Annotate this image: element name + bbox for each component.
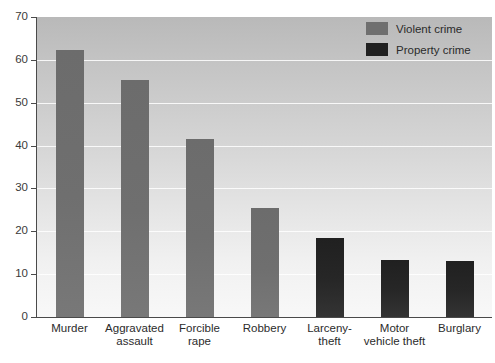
y-axis-tick-mark [31,188,36,189]
x-axis-category-label: Murder [37,322,102,335]
x-axis-line [36,317,492,318]
bar [446,261,474,317]
y-axis-tick-mark [31,231,36,232]
y-axis-line [36,17,37,318]
x-axis-category-label: Forcible rape [167,322,232,348]
y-axis-tick-label: 70 [15,11,28,22]
legend-swatch-icon [366,43,388,56]
y-axis-tick-mark [31,146,36,147]
legend-label: Property crime [396,44,471,56]
gridline [37,188,492,189]
bar [381,260,409,317]
x-axis-category-label: Robbery [232,322,297,335]
bar [186,139,214,317]
y-axis-tick-label: 0 [22,311,28,322]
y-axis-tick-mark [31,60,36,61]
y-axis-tick-label: 60 [15,54,28,65]
y-axis-tick-mark [31,274,36,275]
x-axis-category-label: Aggravated assault [102,322,167,348]
y-axis-tick-mark [31,317,36,318]
y-axis-tick-label: 20 [15,225,28,236]
y-axis-tick-label: 40 [15,140,28,151]
x-axis-category-label: Motor vehicle theft [362,322,427,348]
x-axis-category-label: Larceny- theft [297,322,362,348]
bar-chart: 706050403020100 MurderAggravated assault… [0,0,495,363]
legend-label: Violent crime [396,23,462,35]
y-axis-tick-mark [31,17,36,18]
gridline [37,146,492,147]
bar [56,50,84,317]
bar [121,80,149,317]
legend: Violent crimeProperty crime [366,22,471,64]
bar [316,238,344,317]
x-axis-category-label: Burglary [427,322,492,335]
bar [251,208,279,317]
legend-item: Property crime [366,43,471,56]
y-axis-tick-label: 30 [15,182,28,193]
gridline [37,103,492,104]
y-axis-tick-label: 10 [15,268,28,279]
legend-swatch-icon [366,22,388,35]
y-axis-tick-label: 50 [15,97,28,108]
y-axis-tick-mark [31,103,36,104]
legend-item: Violent crime [366,22,471,35]
